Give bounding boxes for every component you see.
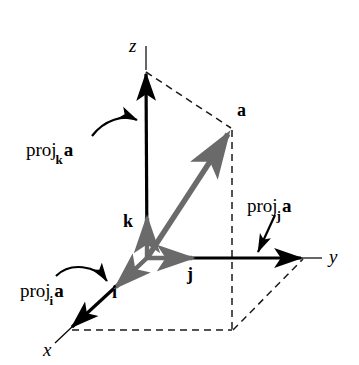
proj-k-pointer-arrow xyxy=(92,118,137,136)
proj-k-base: proj xyxy=(26,139,57,160)
proj-i-operand: a xyxy=(54,280,64,301)
vector-a-arrow xyxy=(147,134,228,258)
proj-j-a-label: projja xyxy=(247,196,291,219)
vector-diagram xyxy=(0,0,359,365)
y-axis-label: y xyxy=(329,247,337,266)
proj-j-base: proj xyxy=(247,195,278,216)
proj-i-a-label: projia xyxy=(20,281,64,304)
proj-i-subscript: i xyxy=(50,293,54,308)
vector-a-shaft xyxy=(147,134,228,258)
x-axis-label: x xyxy=(43,340,51,359)
proj-i-pointer-arrow xyxy=(56,267,107,281)
x-axis-tail xyxy=(55,326,73,343)
unit-vector-i-arrow xyxy=(116,258,147,287)
dashed-base-diagonal xyxy=(233,259,303,330)
proj-k-a-label: projka xyxy=(26,140,73,163)
vector-projection-figure: z y x k j i a projka projja projia xyxy=(0,0,359,365)
proj-k-subscript: k xyxy=(56,152,63,167)
unit-vector-k-label: k xyxy=(123,212,133,230)
proj-k-operand: a xyxy=(64,139,74,160)
vector-a-label: a xyxy=(237,101,246,119)
z-axis-label: z xyxy=(129,36,136,55)
unit-vector-j-label: j xyxy=(187,265,193,283)
proj-i-base: proj xyxy=(20,280,51,301)
proj-j-subscript: j xyxy=(277,208,281,223)
unit-vector-i-label: i xyxy=(112,283,117,301)
dashed-z-to-a xyxy=(146,72,231,128)
proj-j-pointer-arrow xyxy=(258,215,275,252)
proj-j-operand: a xyxy=(282,195,292,216)
